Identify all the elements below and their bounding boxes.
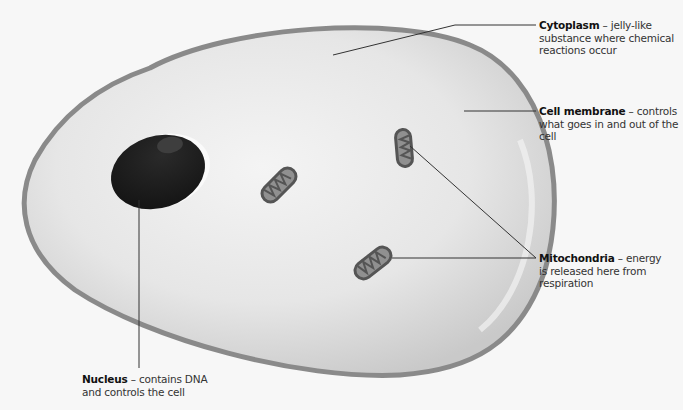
label-nucleus: Nucleus – contains DNA and controls the …: [82, 373, 222, 398]
label-term: Mitochondria: [539, 252, 615, 264]
label-mitochondria: Mitochondria – energy is released here f…: [539, 252, 667, 290]
cell-diagram: [0, 0, 683, 410]
label-cytoplasm: Cytoplasm – jelly-like substance where c…: [539, 19, 679, 57]
label-cell-membrane: Cell membrane – controls what goes in an…: [539, 105, 681, 143]
cell-membrane: [24, 28, 554, 376]
label-term: Cytoplasm: [539, 19, 599, 31]
label-term: Cell membrane: [539, 105, 625, 117]
label-term: Nucleus: [82, 373, 128, 385]
